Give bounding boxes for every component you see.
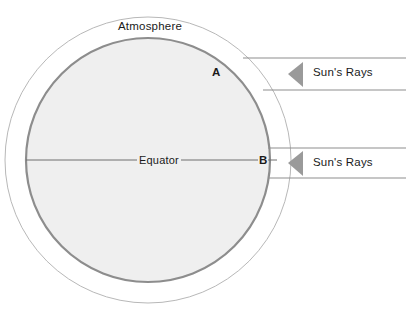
sun-ray-arrow-upper-icon	[288, 62, 303, 87]
point-b-label: B	[258, 155, 268, 167]
diagram-canvas: Atmosphere Equator A B Sun's Rays Sun's …	[0, 0, 406, 321]
atmosphere-label: Atmosphere	[118, 21, 182, 33]
point-a-label: A	[212, 67, 220, 79]
suns-rays-lower-label: Sun's Rays	[313, 157, 373, 169]
suns-rays-upper-label: Sun's Rays	[313, 67, 373, 79]
equator-label: Equator	[137, 155, 181, 166]
